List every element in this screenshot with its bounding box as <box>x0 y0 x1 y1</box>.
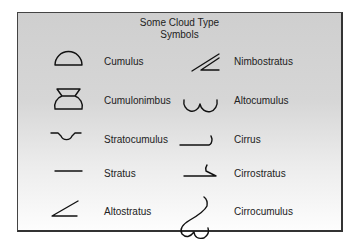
panel-title: Some Cloud Type Symbols <box>18 17 341 41</box>
label-stratocumulus: Stratocumulus <box>104 134 168 146</box>
title-line-2: Symbols <box>18 29 341 41</box>
label-altocumulus: Altocumulus <box>234 95 288 107</box>
label-cumulus: Cumulus <box>104 56 143 68</box>
label-altostratus: Altostratus <box>104 206 151 218</box>
label-nimbostratus: Nimbostratus <box>234 56 293 68</box>
cumulus-icon <box>54 49 84 67</box>
label-cumulonimbus: Cumulonimbus <box>104 95 171 107</box>
label-cirrus: Cirrus <box>234 134 261 146</box>
cirrostratus-icon <box>183 164 219 178</box>
stratus-icon <box>54 169 84 173</box>
title-line-1: Some Cloud Type <box>18 17 341 29</box>
nimbostratus-icon <box>191 53 221 73</box>
label-stratus: Stratus <box>104 168 136 180</box>
cirrocumulus-icon <box>176 196 216 240</box>
stratocumulus-icon <box>50 131 82 147</box>
altocumulus-icon <box>183 98 219 114</box>
altostratus-icon <box>51 200 81 218</box>
cirrus-icon <box>179 135 215 147</box>
label-cirrocumulus: Cirrocumulus <box>234 206 293 218</box>
cumulonimbus-icon <box>54 88 84 112</box>
label-cirrostratus: Cirrostratus <box>234 168 286 180</box>
